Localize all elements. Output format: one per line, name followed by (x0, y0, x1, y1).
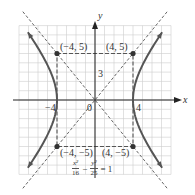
fraction-x2-16: x² 16 (72, 160, 79, 177)
point-label-neg4-neg5: (−4, −5) (60, 148, 93, 158)
x-tick-neg4: −4 (45, 103, 56, 113)
hyperbola-equation: x² 16 − y² 25 = 1 (72, 160, 112, 177)
axes (13, 21, 182, 178)
x-tick-4: 4 (136, 103, 141, 113)
x-axis-label: x (183, 95, 187, 105)
minus-operator: − (82, 164, 87, 174)
origin-label: 0 (87, 103, 92, 113)
point-label-4-neg5: (4, −5) (102, 148, 129, 158)
y-axis-label: y (98, 11, 102, 21)
fraction-y2-25: y² 25 (90, 160, 97, 177)
point-label-4-5: (4, 5) (106, 42, 128, 52)
equation-rhs: = 1 (101, 164, 113, 174)
point-label-neg4-5: (−4, 5) (60, 42, 87, 52)
y-tick-3: 3 (98, 69, 103, 79)
